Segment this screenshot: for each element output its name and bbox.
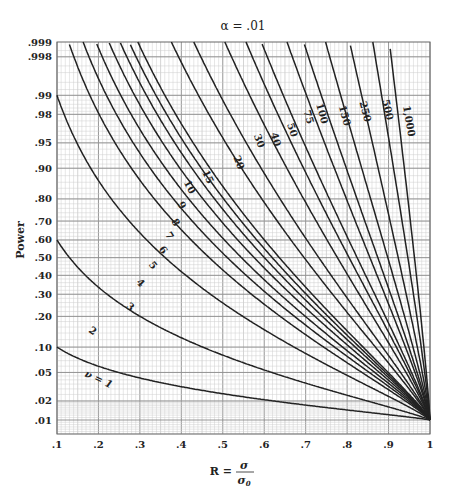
x-tick-label: .3 <box>135 439 145 450</box>
x-tick-label: .8 <box>342 439 352 450</box>
y-tick-label: .20 <box>35 311 52 322</box>
y-axis-label: Power <box>14 221 27 259</box>
curve-label: 150 <box>337 104 353 127</box>
x-tick-label: .6 <box>259 439 269 450</box>
svg-text:σ: σ <box>240 459 249 472</box>
x-tick-label: .2 <box>93 439 103 450</box>
curve-label: 4 <box>134 276 147 289</box>
power-chart: α = .01 .999.998.99.98.95.90.80.70.60.50… <box>0 0 456 504</box>
x-tick-label: .9 <box>383 439 393 450</box>
x-axis-label: R = σ σ0 <box>210 459 254 488</box>
x-tick-label: .5 <box>218 439 228 450</box>
y-tick-label: .90 <box>35 163 52 174</box>
x-tick-label: 1 <box>427 439 434 450</box>
curve-label: 75 <box>302 109 316 125</box>
x-axis-ticks: .1.2.3.4.5.6.7.8.91 <box>52 439 434 450</box>
y-axis-ticks: .999.998.99.98.95.90.80.70.60.50.40.30.2… <box>28 37 52 426</box>
y-tick-label: .02 <box>35 395 52 406</box>
y-tick-label: .60 <box>35 234 52 245</box>
x-tick-label: .7 <box>300 439 310 450</box>
svg-text:σ0: σ0 <box>238 474 251 488</box>
y-tick-label: .40 <box>35 270 52 281</box>
chart-title: α = .01 <box>221 19 266 33</box>
y-tick-label: .05 <box>35 367 52 378</box>
y-tick-label: .999 <box>28 37 52 48</box>
power-curve <box>246 42 430 420</box>
curve-label: 30 <box>252 132 267 149</box>
y-tick-label: .80 <box>35 193 52 204</box>
y-tick-label: .998 <box>28 51 52 62</box>
curve-label: 500 <box>380 98 395 121</box>
curve-label: 2 <box>87 324 99 337</box>
y-tick-label: .50 <box>35 252 52 263</box>
y-tick-label: .95 <box>35 137 52 148</box>
power-curve <box>287 42 430 420</box>
y-tick-label: .10 <box>35 342 52 353</box>
x-tick-label: .1 <box>52 439 62 450</box>
svg-text:R =: R = <box>210 465 232 478</box>
curve-label: 250 <box>358 100 374 123</box>
y-tick-label: .30 <box>35 289 52 300</box>
y-tick-label: .70 <box>35 216 52 227</box>
power-curve <box>225 42 430 420</box>
curve-label: 5 <box>147 259 160 271</box>
y-tick-label: .01 <box>35 415 52 426</box>
curve-label: 3 <box>124 300 136 313</box>
curve-label: 40 <box>269 131 284 148</box>
y-tick-label: .98 <box>35 109 52 120</box>
y-tick-label: .99 <box>35 90 52 101</box>
x-tick-label: .4 <box>176 439 186 450</box>
